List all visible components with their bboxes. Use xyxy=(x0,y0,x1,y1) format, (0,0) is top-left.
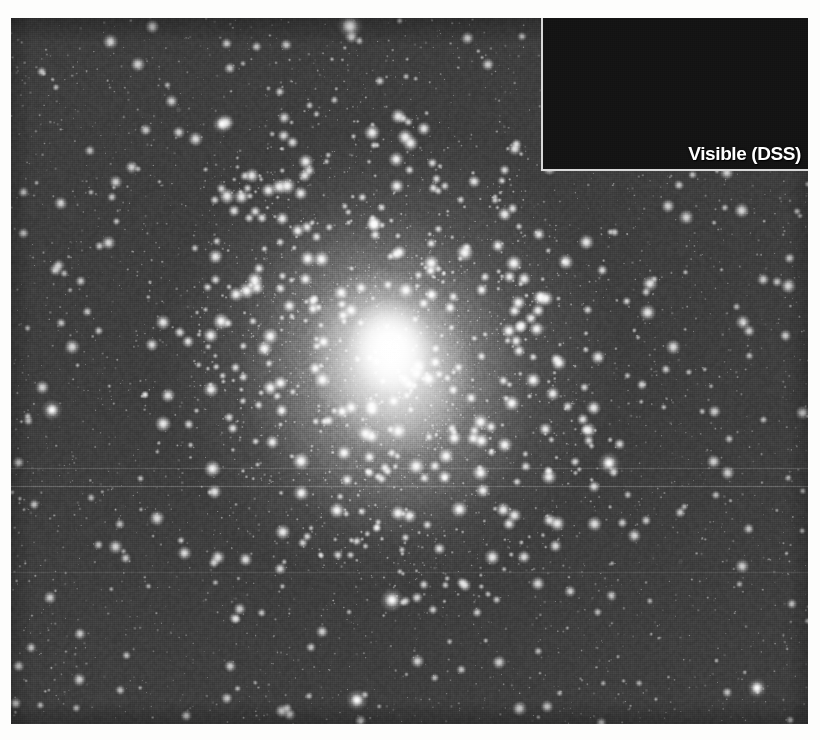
inset-label: Visible (DSS) xyxy=(688,144,801,163)
figure-root: Visible (DSS) xyxy=(0,0,820,740)
main-star-field-image[interactable]: Visible (DSS) xyxy=(11,18,808,724)
visible-dss-inset[interactable]: Visible (DSS) xyxy=(541,18,808,171)
